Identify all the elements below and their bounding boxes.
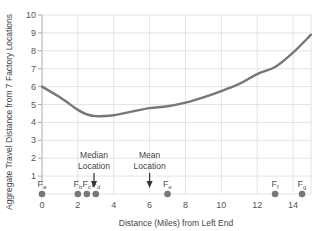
factory-label-f: Ff	[272, 179, 280, 190]
factory-label-c: Fc	[83, 179, 92, 190]
y-axis-label: Aggregate Travel Distance from 7 Factory…	[4, 14, 14, 210]
annotation-text: Location	[78, 161, 110, 171]
x-tick-label: 0	[39, 200, 44, 210]
factory-label-a: Fa	[38, 179, 48, 190]
y-tick-label: 7	[31, 64, 36, 74]
y-tick-label: 6	[31, 82, 36, 92]
x-tick-label: 4	[111, 200, 116, 210]
factory-label-b: Fb	[73, 179, 83, 190]
x-tick-label: 6	[147, 200, 152, 210]
factory-marker-c	[84, 191, 91, 198]
y-tick-label: 8	[31, 46, 36, 56]
x-tick-label: 12	[252, 200, 262, 210]
factory-marker-f	[272, 191, 279, 198]
x-tick-label: 8	[183, 200, 188, 210]
y-tick-label: 9	[31, 28, 36, 38]
annotation-text: Mean	[139, 150, 161, 160]
y-tick-label: 3	[31, 135, 36, 145]
x-axis-label: Distance (Miles) from Left End	[119, 218, 234, 228]
y-tick-label: 5	[31, 100, 36, 110]
factory-markers: FaFbFcFdFeFfFg	[38, 179, 307, 197]
factory-label-e: Fe	[163, 179, 173, 190]
annotation-text: Location	[134, 161, 166, 171]
x-tick-label: 14	[288, 200, 298, 210]
factory-marker-a	[39, 191, 46, 198]
factory-marker-g	[299, 191, 306, 198]
factory-marker-e	[164, 191, 171, 198]
x-tick-label: 10	[216, 200, 226, 210]
factory-marker-b	[75, 191, 82, 198]
y-tick-label: 4	[31, 117, 36, 127]
factory-label-g: Fg	[298, 179, 307, 190]
x-tick-label: 2	[75, 200, 80, 210]
aggregate-distance-curve	[42, 35, 311, 116]
factory-marker-d	[93, 191, 100, 198]
y-tick-label: 10	[26, 10, 36, 20]
y-tick-label: 2	[31, 153, 36, 163]
chart: 0246810121412345678910 FaFbFcFdFeFfFg Me…	[0, 0, 319, 231]
y-tick-label: 1	[31, 171, 36, 181]
annotation-text: Median	[80, 150, 108, 160]
